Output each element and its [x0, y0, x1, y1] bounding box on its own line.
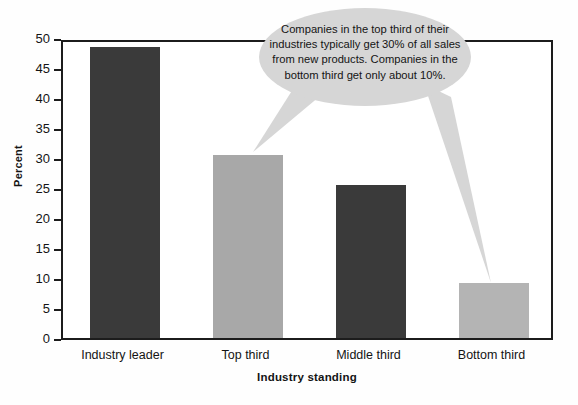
y-tick-mark [54, 309, 61, 311]
plot-area [61, 40, 553, 340]
x-axis-title: Industry standing [61, 371, 553, 383]
chart-figure: Percent 05101520253035404550 Industry le… [0, 0, 578, 405]
y-axis-title: Percent [12, 126, 24, 206]
y-tick-mark [54, 189, 61, 191]
y-tick-label: 45 [36, 61, 50, 76]
y-tick-label: 25 [36, 181, 50, 196]
y-tick-mark [54, 219, 61, 221]
y-tick-mark [54, 159, 61, 161]
y-tick-label: 50 [36, 31, 50, 46]
bar-middle-third[interactable] [336, 185, 406, 338]
y-tick-label: 5 [43, 301, 50, 316]
x-tick-label: Bottom third [417, 348, 567, 362]
y-tick-mark [54, 129, 61, 131]
y-tick-mark [54, 69, 61, 71]
y-tick-mark [54, 39, 61, 41]
y-tick-label: 30 [36, 151, 50, 166]
y-tick-label: 40 [36, 91, 50, 106]
y-tick-label: 15 [36, 241, 50, 256]
bar-industry-leader[interactable] [90, 47, 160, 338]
y-tick-mark [54, 279, 61, 281]
callout-text: Companies in the top third of their indu… [258, 22, 472, 83]
bar-bottom-third[interactable] [459, 283, 529, 338]
y-tick-mark [54, 339, 61, 341]
y-tick-label: 10 [36, 271, 50, 286]
bar-top-third[interactable] [213, 155, 283, 338]
y-tick-label: 0 [43, 331, 50, 346]
y-tick-label: 35 [36, 121, 50, 136]
y-tick-mark [54, 99, 61, 101]
y-tick-mark [54, 249, 61, 251]
y-tick-label: 20 [36, 211, 50, 226]
